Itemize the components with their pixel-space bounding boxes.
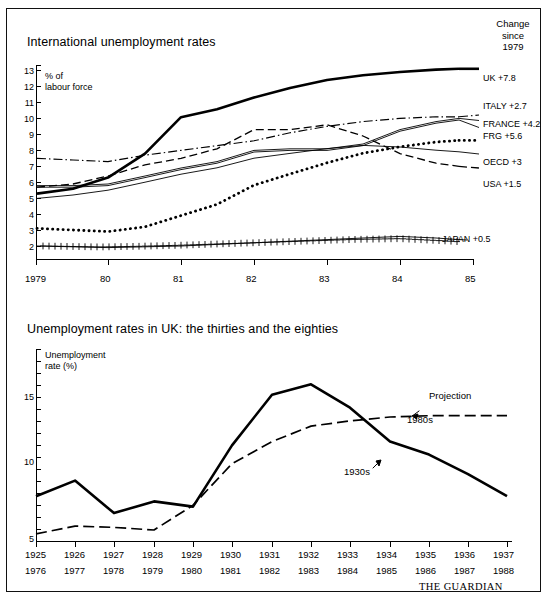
publisher-credit: THE GUARDIAN	[419, 581, 503, 592]
bottom-chart-axes	[36, 349, 512, 547]
page-frame: International unemployment rates Change …	[6, 8, 541, 592]
arrow-head-1980s	[412, 414, 418, 419]
arrow-head-1930s	[376, 460, 381, 466]
bottom-chart-plot	[7, 9, 542, 600]
annotation-arrows	[373, 411, 419, 468]
series-line-1980s	[36, 416, 507, 534]
guardian-chart-page: International unemployment rates Change …	[0, 0, 549, 600]
series-line-1930s	[36, 384, 507, 513]
